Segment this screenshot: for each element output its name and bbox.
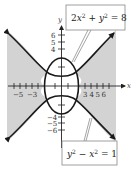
x-tick-label: 4 — [90, 91, 95, 99]
y-tick-label: 4 — [51, 46, 56, 54]
x-axis-label: x — [127, 82, 131, 90]
x-tick-label: −3 — [27, 91, 37, 99]
x-tick-label: 6 — [102, 91, 107, 99]
ellipse-equation: 2x2 + y2 = 8 — [71, 12, 127, 23]
shaded-region-left — [7, 31, 47, 142]
x-tick-label: −5 — [13, 91, 23, 99]
graph-figure: x y −5 −3 3 4 5 6 6 5 4 — [0, 0, 136, 172]
x-tick-label: 3 — [83, 91, 87, 99]
x-tick-label: 5 — [96, 91, 100, 99]
y-tick-label: −6 — [47, 127, 58, 135]
y-axis-label: y — [57, 16, 63, 24]
